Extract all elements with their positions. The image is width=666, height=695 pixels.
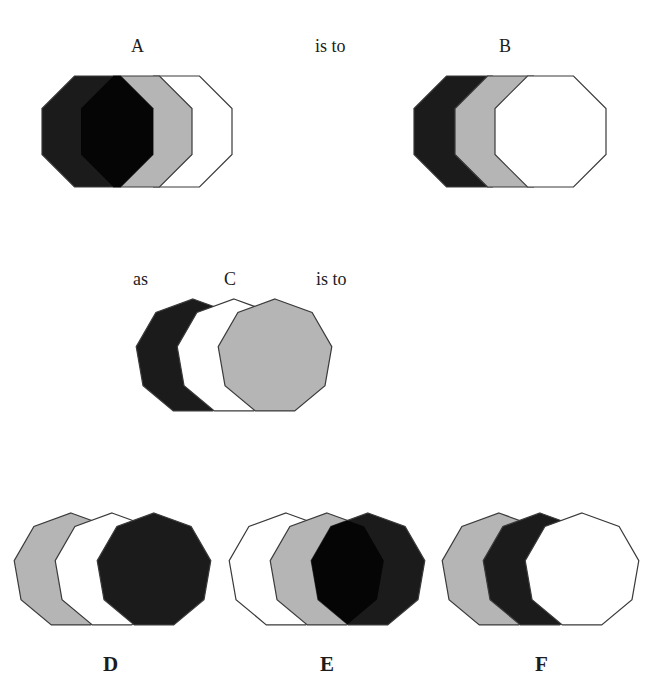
label-is-to-1: is to bbox=[315, 37, 346, 55]
option-label-f[interactable]: F bbox=[535, 654, 548, 675]
option-e[interactable] bbox=[229, 513, 425, 625]
label-as: as bbox=[133, 270, 148, 288]
figure-b bbox=[414, 76, 606, 187]
label-is-to-2: is to bbox=[316, 270, 347, 288]
option-label-e[interactable]: E bbox=[320, 654, 334, 675]
option-d[interactable] bbox=[14, 513, 211, 625]
analogy-diagram bbox=[0, 0, 666, 695]
figure-a bbox=[42, 76, 232, 187]
label-a: A bbox=[131, 37, 144, 55]
label-b: B bbox=[499, 37, 511, 55]
option-label-d[interactable]: D bbox=[103, 654, 118, 675]
white-octagon-shape bbox=[495, 76, 606, 187]
option-f[interactable] bbox=[442, 513, 639, 625]
figure-c bbox=[136, 299, 332, 411]
label-c: C bbox=[224, 270, 236, 288]
